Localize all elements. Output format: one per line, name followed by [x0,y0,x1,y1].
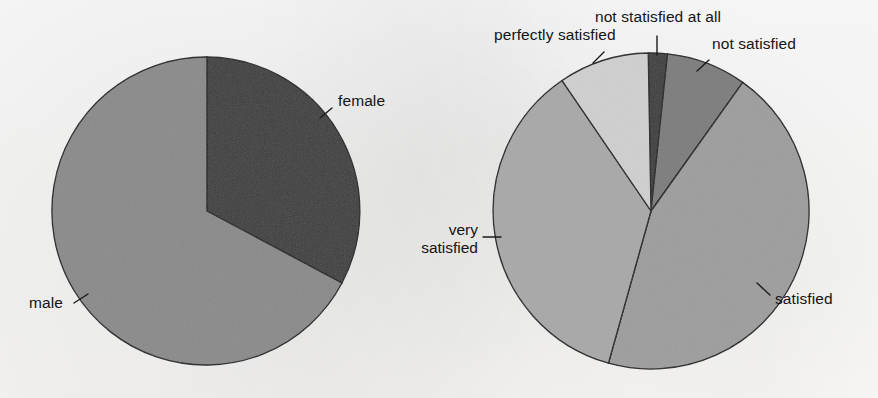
pie-label-not-satisfied: not satisfied [712,35,796,52]
pie-label-perfectly-satisfied: perfectly satisfied [494,26,616,43]
pie-label-satisfied: satisfied [775,290,833,307]
pie-label-very-satisfied-line2: satisfied [378,239,478,257]
pie-label-male: male [29,294,63,311]
gender-pie-chart [0,0,878,398]
pie-label-not-satisfied-at-all: not statisfied at all [558,8,758,25]
pie-label-female: female [338,92,385,109]
pie-label-very-satisfied: very satisfied [378,221,478,257]
pie-label-very-satisfied-line1: very [378,221,478,239]
